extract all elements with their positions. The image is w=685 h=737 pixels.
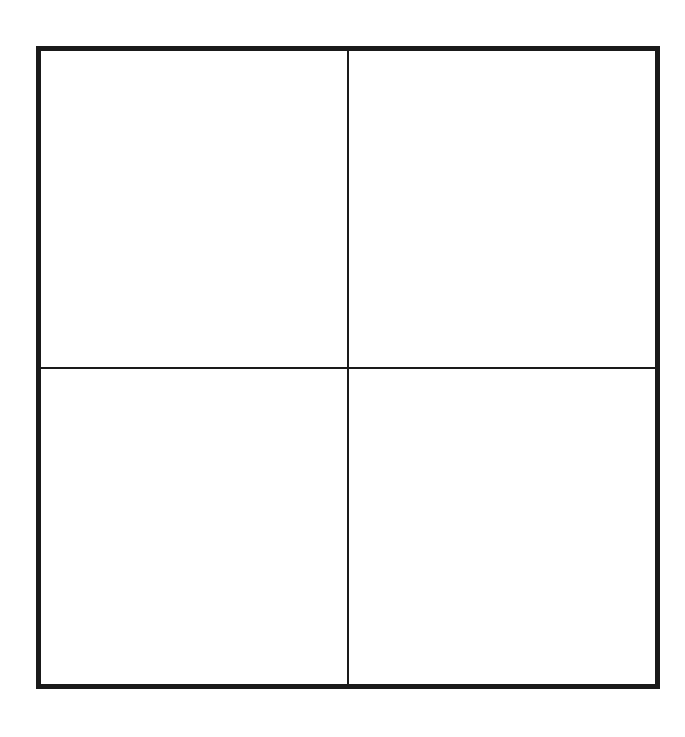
- grid-cell-bottom-right: [349, 369, 655, 684]
- grid-cell-top-right: [349, 51, 655, 367]
- grid-frame: [36, 46, 660, 689]
- grid-cell-top-left: [41, 51, 347, 367]
- horizontal-divider: [41, 367, 655, 369]
- grid-cell-bottom-left: [41, 369, 347, 684]
